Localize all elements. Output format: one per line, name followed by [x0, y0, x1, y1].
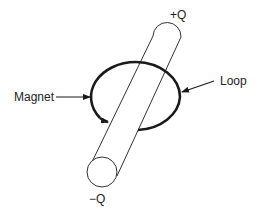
magnet-left-edge	[91, 36, 153, 164]
magnet-label: Magnet	[14, 90, 55, 104]
loop-pointer-arrow	[182, 81, 214, 92]
magnet-right-edge	[117, 37, 181, 176]
magnet-top-cap	[153, 22, 181, 37]
magnet-bottom-cap	[87, 157, 117, 187]
diagram-canvas: Magnet Loop +Q −Q	[0, 0, 257, 209]
loop-direction-arrow	[100, 118, 108, 122]
minus-q-label: −Q	[89, 192, 105, 206]
loop-label: Loop	[220, 74, 247, 88]
magnet-cylinder	[87, 22, 181, 187]
plus-q-label: +Q	[170, 8, 186, 22]
